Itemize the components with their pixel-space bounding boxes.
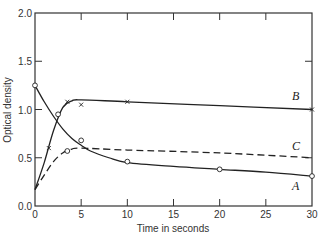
- x-tick-label: 15: [168, 209, 180, 220]
- circle-marker: [33, 83, 38, 88]
- y-tick-label: 1.0: [18, 105, 32, 116]
- series-b-label: B: [292, 89, 300, 103]
- y-tick-label: 0.5: [18, 153, 32, 164]
- circle-marker: [125, 159, 130, 164]
- x-tick-label: 5: [78, 209, 84, 220]
- x-tick-label: 10: [122, 209, 134, 220]
- circle-marker: [56, 112, 61, 117]
- data-markers: [33, 83, 315, 179]
- circle-marker: [310, 174, 315, 179]
- circle-marker: [217, 167, 222, 172]
- y-tick-label: 0.0: [18, 201, 32, 212]
- series-c-label: C: [292, 139, 301, 153]
- x-tick-label: 25: [260, 209, 272, 220]
- y-tick-label: 2.0: [18, 8, 32, 19]
- circle-marker: [79, 138, 84, 143]
- x-axis-label: Time in seconds: [137, 223, 209, 234]
- plot-border: [35, 13, 312, 206]
- x-tick-label: 30: [306, 209, 318, 220]
- y-axis-label: Optical density: [2, 77, 13, 143]
- y-tick-label: 1.5: [18, 56, 32, 67]
- series-c-line: [35, 148, 312, 190]
- series-a-label: A: [291, 179, 300, 193]
- plot-frame: [35, 13, 312, 206]
- series-b-line: [35, 100, 312, 190]
- data-series: [35, 85, 312, 189]
- series-labels: ABC: [291, 89, 301, 194]
- x-tick-label: 0: [32, 209, 38, 220]
- series-a-line: [35, 85, 312, 176]
- x-tick-label: 20: [214, 209, 226, 220]
- axis-ticks: 0510152025300.00.51.01.52.0: [18, 8, 318, 220]
- chart: 0510152025300.00.51.01.52.0 ABC Time in …: [0, 0, 322, 238]
- circle-marker: [65, 149, 70, 154]
- cross-marker: [79, 103, 83, 107]
